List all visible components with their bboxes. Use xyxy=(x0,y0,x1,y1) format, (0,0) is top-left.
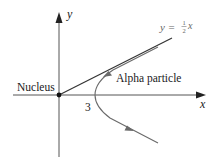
alpha-particle-label: Alpha particle xyxy=(116,72,181,85)
vertex-x-label: 3 xyxy=(85,101,91,113)
alpha-particle-diagram: y x Nucleus Alpha particle 3 y = 1 2 x xyxy=(0,0,218,166)
nucleus-label: Nucleus xyxy=(17,81,55,93)
eq-prefix: y = xyxy=(159,21,175,33)
y-axis-arrow-icon xyxy=(56,12,63,23)
eq-frac-num: 1 xyxy=(183,19,186,26)
y-axis-label: y xyxy=(66,7,73,21)
nucleus-dot xyxy=(57,93,62,98)
y-axis xyxy=(56,12,63,157)
eq-suffix: x xyxy=(187,20,193,31)
asymptote-equation: y = 1 2 x xyxy=(159,19,193,34)
eq-frac-den: 2 xyxy=(183,27,186,34)
asymptote-line xyxy=(59,38,172,95)
x-axis-label: x xyxy=(199,97,206,111)
